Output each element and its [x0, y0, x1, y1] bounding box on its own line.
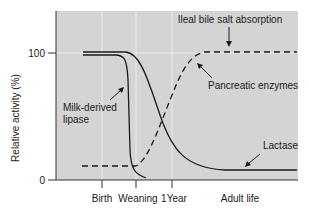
annotation-pancreatic: Pancreatic enzymes: [208, 80, 298, 91]
annotation-milk-line2: lipase: [63, 114, 90, 125]
annotation-ileal: Ileal bile salt absorption: [178, 14, 283, 25]
xtick-label-adult: Adult life: [221, 193, 260, 204]
ytick-label-0: 0: [39, 175, 45, 186]
xtick-label-year: 1Year: [161, 193, 187, 204]
plot-area: [56, 11, 298, 180]
annotation-lactase: Lactase: [263, 140, 298, 151]
chart: 100 0 Birth Weaning 1Year Adult life Rel…: [0, 0, 309, 212]
xtick-label-birth: Birth: [92, 193, 113, 204]
ytick-label-100: 100: [28, 48, 45, 59]
xtick-label-weaning: Weaning: [118, 193, 157, 204]
y-axis-label: Relative activity (%): [10, 74, 21, 162]
annotation-milk-line1: Milk-derived: [63, 102, 117, 113]
